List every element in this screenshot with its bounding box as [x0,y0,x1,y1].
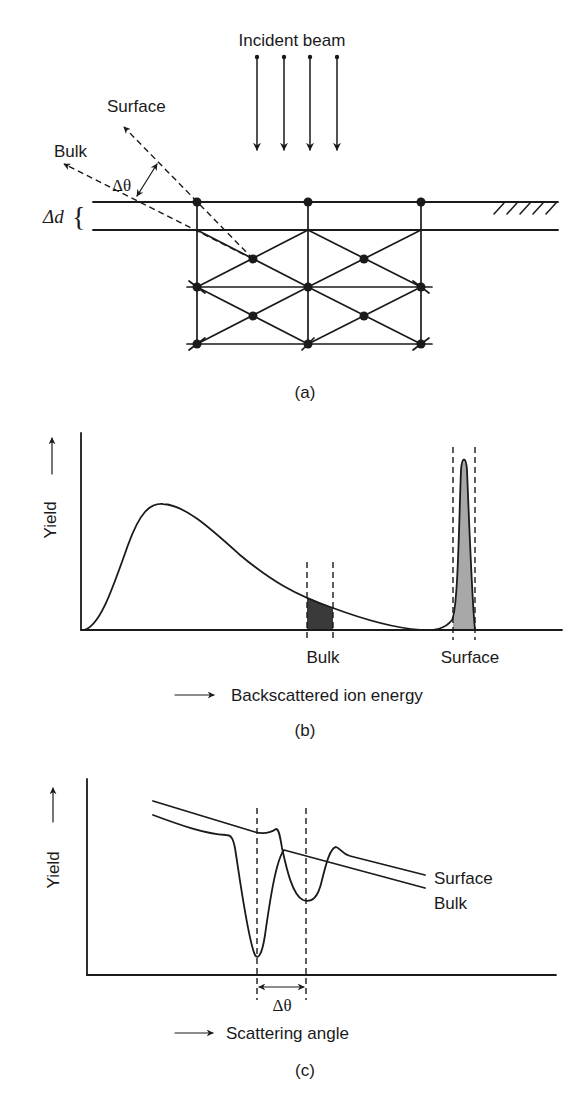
b-surface-label: Surface [441,648,500,667]
panel-c-caption: (c) [295,1061,315,1080]
surface-atom [193,198,202,207]
lattice-atoms [193,198,426,349]
panel-b-caption: (b) [295,721,316,740]
b-bulk-label: Bulk [306,648,340,667]
delta-theta-label: Δθ [112,176,131,195]
surface-shaded-peak [453,460,475,631]
bulk-atom [304,283,313,292]
bulk-atom [249,255,258,264]
c-bulk-curve [153,815,425,957]
b-xlabel: Backscattered ion energy [231,686,423,705]
bulk-atom [360,312,369,321]
beam-arrow [255,55,259,150]
panel-a: Incident beam Surface Bulk Δ [42,31,558,402]
c-delta-theta-label: Δθ [272,996,291,1015]
beam-arrow [282,55,286,150]
bulk-atom [417,340,426,349]
incident-beam-label: Incident beam [239,31,346,50]
crystal-lattice [187,202,432,350]
surface-hatching [494,203,556,214]
surface-atom [417,198,426,207]
b-spectrum-curve [84,460,475,631]
c-xlabel: Scattering angle [226,1024,349,1043]
delta-d-text: Δd [42,206,64,227]
b-yield-label: Yield [41,501,60,538]
c-y-axis-label: Yield [44,788,63,889]
surface-direction-label: Surface [107,97,166,116]
surface-atom [304,198,313,207]
beam-arrow [308,55,312,150]
c-yield-label: Yield [44,851,63,888]
bulk-atom [304,340,313,349]
panel-a-caption: (a) [295,383,316,402]
bulk-atom [193,340,202,349]
bulk-direction-label: Bulk [54,142,88,161]
c-bulk-label: Bulk [434,894,468,913]
bulk-shaded-region [307,597,333,630]
panel-b: Bulk Surface Yield Backscattered ion ene… [41,433,562,740]
b-x-axis-label: Backscattered ion energy [175,686,423,705]
b-y-axis-label: Yield [41,438,60,539]
surface-scatter-path [124,127,253,259]
delta-d-label: Δd [42,206,64,227]
panel-c: Surface Bulk Δθ Yield Scattering angle (… [44,779,556,1080]
delta-theta-angle-arrow [137,164,157,196]
bulk-atom [360,255,369,264]
backscattering-figure: Incident beam Surface Bulk Δ [0,0,581,1101]
bulk-atom [193,283,202,292]
delta-d-brace: { [72,201,85,232]
bulk-atom [417,283,426,292]
c-surface-label: Surface [434,869,493,888]
incident-beam-arrows [255,55,339,150]
beam-arrow [335,55,339,150]
bulk-atom [249,312,258,321]
c-x-axis-label: Scattering angle [175,1024,349,1043]
